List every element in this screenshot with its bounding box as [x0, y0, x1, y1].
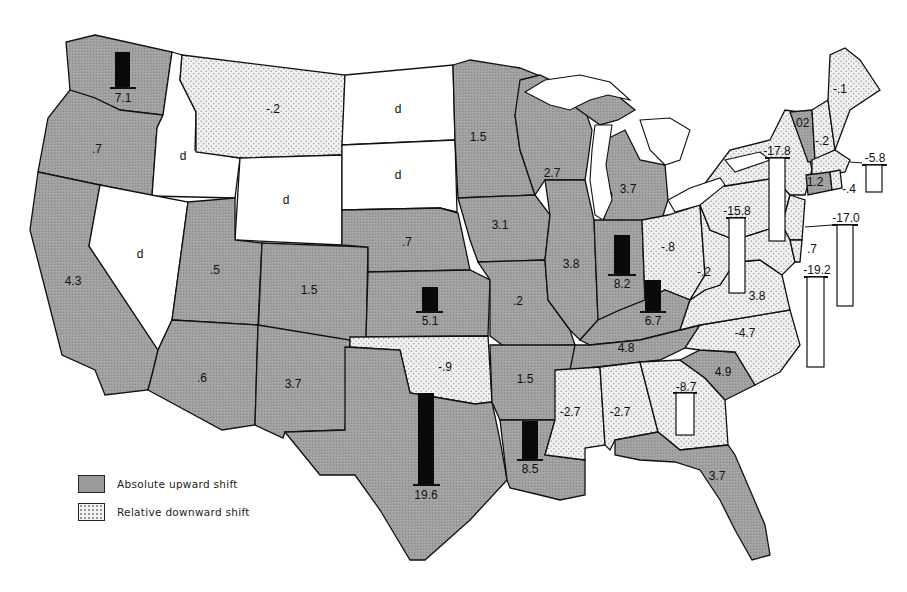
label-KS: 5.1: [422, 314, 439, 328]
label-AR: 1.5: [517, 372, 534, 386]
label-KY: 6.7: [645, 314, 662, 328]
label-SC: 4.9: [715, 365, 732, 379]
label-MI: 3.7: [620, 182, 637, 196]
label-WV: -.2: [697, 265, 711, 279]
label-SD: d: [395, 168, 402, 182]
label-WA: 7.1: [115, 91, 132, 105]
label-LA: 8.5: [522, 462, 539, 476]
label-NM: 3.7: [285, 377, 302, 391]
label-AZ: .6: [197, 371, 207, 385]
label-MT: -.2: [266, 102, 280, 116]
label-IA: 3.1: [492, 218, 509, 232]
label-NC: -4.7: [735, 326, 756, 340]
legend-item-upward: Absolute upward shift: [78, 472, 250, 496]
legend: Absolute upward shift Relative downward …: [78, 472, 250, 528]
label-TN: 4.8: [618, 341, 635, 355]
lake-huron: [640, 118, 690, 165]
label-CO: 1.5: [301, 283, 318, 297]
label-MO: .2: [513, 294, 523, 308]
label-MS: -2.7: [560, 405, 581, 419]
label-OH: -.8: [661, 240, 675, 254]
label-PA: -15.8: [723, 204, 751, 218]
legend-swatch-downward: [78, 503, 105, 521]
label-IN: 8.2: [614, 277, 631, 291]
state-ME: [828, 48, 880, 150]
label-RI: -.4: [842, 182, 856, 196]
label-NJ: -17.0: [832, 211, 860, 225]
bar-PA: [726, 218, 746, 293]
label-CA: 4.3: [65, 274, 82, 288]
label-TX: 19.6: [414, 488, 438, 502]
label-AL: -2.7: [610, 405, 631, 419]
state-FL: [615, 432, 770, 560]
label-NH: -.2: [815, 134, 829, 148]
label-OK: -.9: [438, 360, 452, 374]
state-MT: [180, 55, 345, 158]
label-NY: -17.8: [763, 144, 791, 158]
state-RI: [830, 170, 842, 190]
label-ME: -.1: [833, 82, 847, 96]
label-NE: .7: [402, 235, 412, 249]
label-WY: d: [283, 193, 290, 207]
label-MA: -5.8: [865, 151, 886, 165]
bar-MD: [804, 277, 828, 367]
label-WI: 2.7: [544, 166, 561, 180]
legend-label-upward: Absolute upward shift: [117, 478, 238, 490]
label-IL: 3.8: [563, 257, 580, 271]
label-VT: .02: [793, 116, 810, 130]
state-NM: [255, 325, 350, 438]
bar-GA: [673, 393, 697, 435]
label-UT: .5: [210, 263, 220, 277]
label-OR: .7: [92, 142, 102, 156]
label-MD: -19.2: [803, 263, 831, 277]
label-MN: 1.5: [470, 130, 487, 144]
label-ND: d: [395, 102, 402, 116]
legend-label-downward: Relative downward shift: [117, 506, 250, 518]
label-DE: .7: [807, 242, 817, 256]
legend-item-downward: Relative downward shift: [78, 500, 250, 524]
label-CT: 1.2: [807, 175, 824, 189]
label-NV: d: [137, 247, 144, 261]
label-ID: d: [180, 149, 187, 163]
label-GA: -8.7: [676, 380, 697, 394]
label-FL: 3.7: [709, 469, 726, 483]
legend-swatch-upward: [78, 475, 105, 493]
label-VA: 3.8: [749, 289, 766, 303]
